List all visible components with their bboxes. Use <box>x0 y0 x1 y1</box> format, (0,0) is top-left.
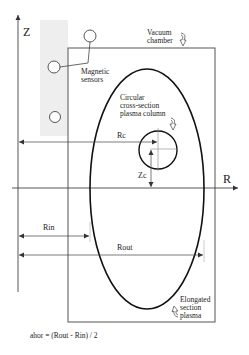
rin-label: Rin <box>43 223 55 232</box>
magnetic-sensor-1 <box>84 30 96 42</box>
magnetic-sensor-3 <box>50 112 61 123</box>
circular-label-3: plasma column <box>120 109 166 118</box>
rout-label: Rout <box>117 243 133 252</box>
elongated-pointer-icon <box>172 306 178 317</box>
elongated-label-3: plasma <box>180 311 202 320</box>
z-axis-label: Z <box>23 25 30 39</box>
rc-label: Rc <box>117 131 126 140</box>
magnetic-sensors-label-2: sensors <box>81 75 103 84</box>
magnetic-sensor-2 <box>48 61 60 73</box>
vacuum-chamber-label-2: chamber <box>147 36 173 45</box>
zc-label: Zc <box>138 171 147 180</box>
r-axis-label: R <box>223 172 231 186</box>
formula-text: ahor = (Rout - Rin) / 2 <box>30 331 98 340</box>
vacuum-chamber-pointer-icon <box>180 33 186 46</box>
plasma-geometry-diagram: Z R Magnetic sensors Vacuum chamber Circ… <box>0 0 249 355</box>
circular-pointer-icon <box>170 118 176 130</box>
